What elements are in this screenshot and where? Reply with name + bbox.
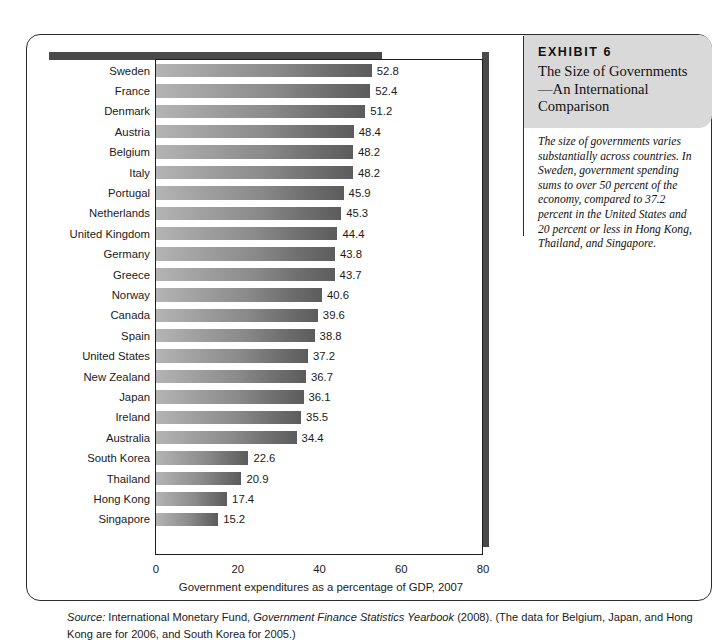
bar-category-label: New Zealand — [27, 367, 150, 387]
bar-category-label: Thailand — [27, 469, 150, 489]
source-label: Source: — [67, 611, 105, 623]
bar-row: Ireland35.5 — [27, 407, 532, 427]
bar-row: Thailand20.9 — [27, 469, 532, 489]
x-axis: Government expenditures as a percentage … — [27, 555, 532, 601]
bar — [156, 309, 318, 322]
bar — [156, 227, 337, 240]
bar-value-label: 20.9 — [246, 469, 268, 489]
bar-value-label: 40.6 — [327, 285, 349, 305]
bar-value-label: 48.4 — [359, 122, 381, 142]
bar-value-label: 48.2 — [358, 163, 380, 183]
bar-value-label: 51.2 — [370, 101, 392, 121]
bar — [156, 472, 241, 485]
source-italic-title: Government Finance Statistics Yearbook — [253, 611, 454, 623]
bar-row: Germany43.8 — [27, 244, 532, 264]
bar-value-label: 43.7 — [340, 265, 362, 285]
exhibit-panel: EXHIBIT 6 The Size of Governments—An Int… — [524, 35, 712, 602]
source-text-1: International Monetary Fund, — [105, 611, 253, 623]
bar-row: Denmark51.2 — [27, 101, 532, 121]
bar-row: France52.4 — [27, 81, 532, 101]
bar-value-label: 17.4 — [232, 489, 254, 509]
bar-category-label: Hong Kong — [27, 489, 150, 509]
bar-row: Hong Kong17.4 — [27, 489, 532, 509]
bar-category-label: Canada — [27, 305, 150, 325]
bar-value-label: 15.2 — [223, 509, 245, 529]
bar — [156, 247, 335, 260]
exhibit-title: The Size of Governments—An International… — [538, 63, 698, 116]
exhibit-number: EXHIBIT 6 — [538, 45, 698, 59]
bar — [156, 125, 354, 138]
bar-value-label: 36.1 — [309, 387, 331, 407]
bar-row: United Kingdom44.4 — [27, 224, 532, 244]
bar — [156, 207, 341, 220]
bar-value-label: 39.6 — [323, 305, 345, 325]
bar-value-label: 52.8 — [377, 61, 399, 81]
bar-value-label: 43.8 — [340, 244, 362, 264]
bar-category-label: Belgium — [27, 142, 150, 162]
bar-value-label: 22.6 — [253, 448, 275, 468]
x-tick-label: 80 — [477, 563, 490, 575]
bar-row: Australia34.4 — [27, 428, 532, 448]
bar-category-label: Germany — [27, 244, 150, 264]
bar-row: Portugal45.9 — [27, 183, 532, 203]
bar — [156, 451, 248, 464]
bar-category-label: Denmark — [27, 101, 150, 121]
bar-value-label: 38.8 — [320, 326, 342, 346]
bar-row: Canada39.6 — [27, 305, 532, 325]
bar — [156, 329, 315, 342]
bar-row: Italy48.2 — [27, 163, 532, 183]
bar — [156, 411, 301, 424]
bar — [156, 268, 335, 281]
bar-value-label: 34.4 — [302, 428, 324, 448]
bar-value-label: 37.2 — [313, 346, 335, 366]
bar-row: Norway40.6 — [27, 285, 532, 305]
bar-category-label: United States — [27, 346, 150, 366]
exhibit-caption: The size of governments varies substanti… — [538, 135, 700, 252]
bar-category-label: Portugal — [27, 183, 150, 203]
bar-chart: Sweden52.8France52.4Denmark51.2Austria48… — [27, 35, 532, 602]
bar-row: Greece43.7 — [27, 265, 532, 285]
bar — [156, 513, 218, 526]
bar-category-label: Sweden — [27, 61, 150, 81]
bar — [156, 84, 370, 97]
bar-row: United States37.2 — [27, 346, 532, 366]
bar-category-label: Singapore — [27, 509, 150, 529]
bar-value-label: 52.4 — [375, 81, 397, 101]
bar-rows: Sweden52.8France52.4Denmark51.2Austria48… — [27, 59, 532, 555]
bar-value-label: 45.3 — [346, 203, 368, 223]
bar-row: Japan36.1 — [27, 387, 532, 407]
bar-category-label: Spain — [27, 326, 150, 346]
x-axis-title: Government expenditures as a percentage … — [156, 581, 486, 593]
bar — [156, 390, 304, 403]
x-tick-label: 0 — [153, 563, 159, 575]
bar-row: Netherlands45.3 — [27, 203, 532, 223]
bar-row: New Zealand36.7 — [27, 367, 532, 387]
bar-value-label: 35.5 — [306, 407, 328, 427]
bar-category-label: South Korea — [27, 448, 150, 468]
bar-row: South Korea22.6 — [27, 448, 532, 468]
bar — [156, 166, 353, 179]
bar-row: Sweden52.8 — [27, 61, 532, 81]
bar-category-label: Netherlands — [27, 203, 150, 223]
bar — [156, 431, 297, 444]
x-tick-label: 20 — [231, 563, 244, 575]
x-tick-label: 60 — [395, 563, 408, 575]
bar-category-label: Greece — [27, 265, 150, 285]
bar — [156, 105, 365, 118]
bar-row: Spain38.8 — [27, 326, 532, 346]
bar-category-label: Austria — [27, 122, 150, 142]
bar-category-label: Japan — [27, 387, 150, 407]
bar — [156, 145, 353, 158]
bar-row: Belgium48.2 — [27, 142, 532, 162]
bar-category-label: Italy — [27, 163, 150, 183]
bar-value-label: 45.9 — [349, 183, 371, 203]
bar-value-label: 48.2 — [358, 142, 380, 162]
x-tick-label: 40 — [313, 563, 326, 575]
bar — [156, 349, 308, 362]
bar-category-label: Norway — [27, 285, 150, 305]
bar-category-label: United Kingdom — [27, 224, 150, 244]
bar — [156, 492, 227, 505]
exhibit-card: Sweden52.8France52.4Denmark51.2Austria48… — [26, 34, 712, 601]
bar — [156, 288, 322, 301]
bar-row: Austria48.4 — [27, 122, 532, 142]
